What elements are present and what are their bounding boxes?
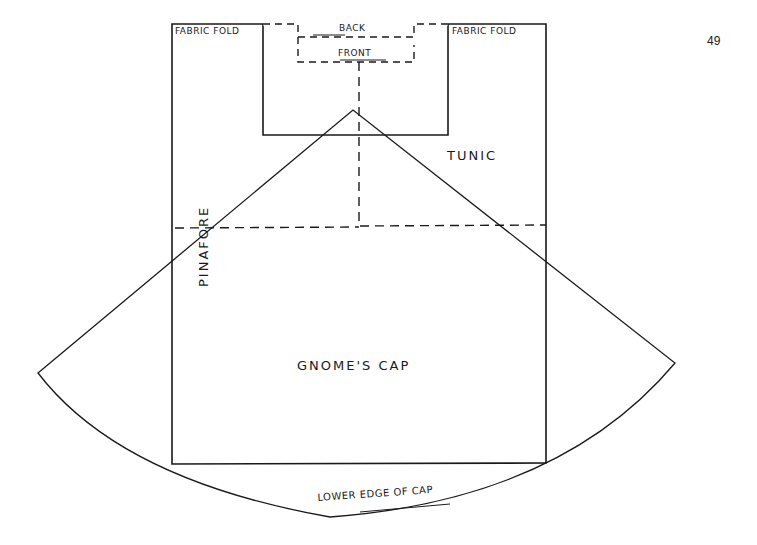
page-number: 49 — [707, 34, 720, 48]
tunic-label: TUNIC — [447, 148, 497, 163]
pattern-diagram — [0, 0, 757, 545]
gnome-cap-outline — [38, 110, 675, 517]
fabric-fold-left-label: FABRIC FOLD — [175, 26, 239, 36]
center-fold-line — [359, 62, 546, 226]
back-label: BACK — [339, 23, 365, 33]
gnomes-cap-label: GNOME'S CAP — [297, 358, 410, 373]
fabric-fold-right-label: FABRIC FOLD — [452, 26, 516, 36]
pinafore-label: PINAFORE — [196, 206, 211, 287]
front-label: FRONT — [338, 48, 371, 58]
tunic-outline — [172, 24, 546, 464]
